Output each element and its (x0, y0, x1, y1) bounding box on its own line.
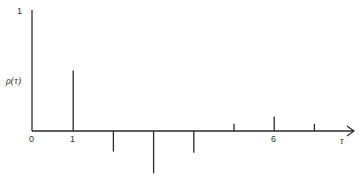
stems (73, 71, 314, 174)
acf-chart (0, 0, 363, 181)
x-tick-6: 6 (271, 134, 276, 144)
y-tick-1: 1 (17, 6, 22, 16)
x-tick-1: 1 (70, 134, 75, 144)
x-axis-label: τ (340, 136, 344, 146)
x-tick-0: 0 (29, 134, 34, 144)
y-axis-label: ρ(τ) (6, 76, 21, 86)
